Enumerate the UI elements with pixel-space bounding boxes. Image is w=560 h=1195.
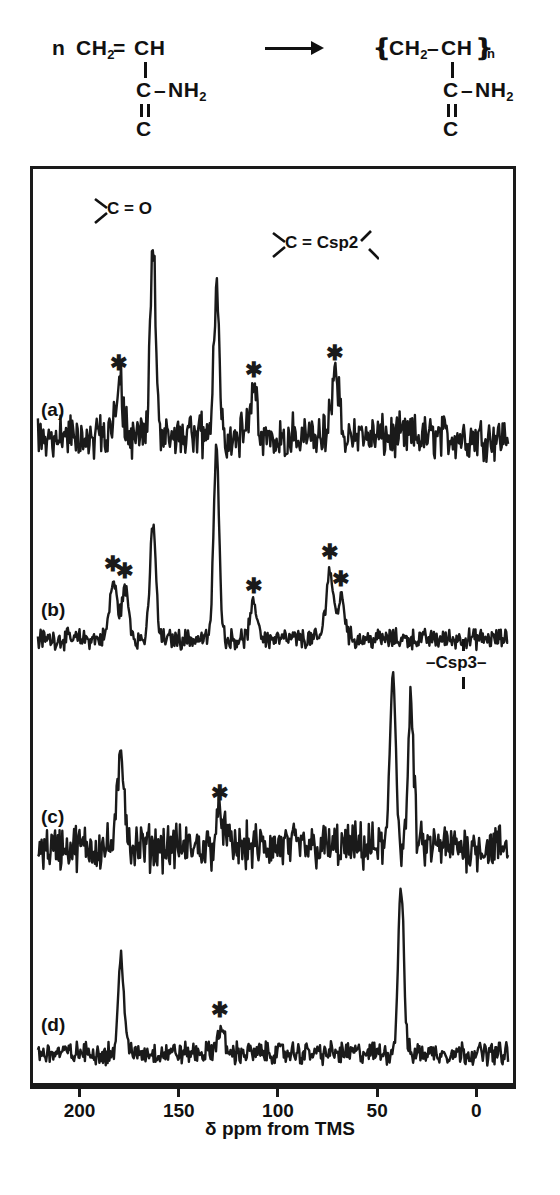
monomer-double-bond-left bbox=[140, 104, 143, 117]
polymer-ch: CH bbox=[441, 36, 472, 60]
sideband-asterisk: ✱ bbox=[332, 567, 350, 590]
monomer-amide-dash: – bbox=[154, 78, 166, 102]
polymer-bond-ch-to-c bbox=[451, 62, 454, 78]
sideband-asterisk: ✱ bbox=[326, 341, 344, 364]
polymer-double-bond-left bbox=[447, 104, 450, 117]
x-tick-200 bbox=[78, 1086, 81, 1097]
monomer-bond-ch-to-c bbox=[144, 62, 147, 78]
sideband-asterisk: ✱ bbox=[211, 781, 229, 804]
spectrum-trace-b bbox=[38, 445, 508, 651]
monomer-double-bond-eq: = bbox=[113, 36, 126, 60]
sideband-asterisk: ✱ bbox=[321, 540, 339, 563]
polymer-ch2-text: CH bbox=[389, 36, 420, 59]
csp3-label: –Csp3– bbox=[426, 653, 486, 673]
reaction-scheme: n CH2 = CH C – NH2 C ❴ CH2 – CH ❵ n C – … bbox=[0, 0, 560, 160]
x-tick-150 bbox=[177, 1086, 180, 1097]
x-axis-title: δ ppm from TMS bbox=[0, 1118, 560, 1140]
sideband-asterisk: ✱ bbox=[116, 559, 134, 582]
polymer-terminal-carbon: C bbox=[443, 117, 459, 141]
monomer-ch2-text: CH bbox=[76, 36, 107, 59]
sideband-asterisk: ✱ bbox=[245, 574, 263, 597]
polymer-repeat-subscript: n bbox=[487, 46, 495, 61]
monomer-nh-subscript: 2 bbox=[199, 89, 207, 104]
x-tick-0 bbox=[475, 1086, 478, 1097]
monomer-ch: CH bbox=[134, 36, 165, 60]
spectrum-trace-d bbox=[38, 889, 508, 1066]
monomer-terminal-carbon: C bbox=[136, 117, 152, 141]
trace-label-d: (d) bbox=[41, 1014, 65, 1036]
csp3-bond-bottom-icon bbox=[462, 677, 465, 689]
polymer-dash: – bbox=[427, 36, 439, 60]
right-arrow-icon bbox=[265, 40, 327, 56]
trace-label-a: (a) bbox=[41, 399, 64, 421]
polymer-amide-dash: – bbox=[461, 78, 473, 102]
monomer-ch2: CH2 bbox=[76, 36, 115, 62]
x-tick-100 bbox=[276, 1086, 279, 1097]
polymer-nh-subscript: 2 bbox=[506, 89, 514, 104]
polymer-amide-nitrogen: NH2 bbox=[475, 78, 514, 104]
csp2-bond-right-icon bbox=[357, 229, 379, 261]
polymer-double-bond-right bbox=[454, 104, 457, 117]
sideband-asterisk: ✱ bbox=[245, 358, 263, 381]
monomer-amide-nitrogen: NH2 bbox=[168, 78, 207, 104]
trace-label-c: (c) bbox=[41, 806, 64, 828]
x-axis-line bbox=[30, 1086, 516, 1089]
polymer-nh-text: NH bbox=[475, 78, 506, 101]
trace-label-b: (b) bbox=[41, 599, 65, 621]
x-tick-50 bbox=[376, 1086, 379, 1097]
spectra-plot-frame: ✱✱✱✱✱✱✱✱✱✱ (a) (b) (c) (d) C = O C = Csp… bbox=[30, 166, 516, 1086]
monomer-coefficient: n bbox=[52, 36, 65, 60]
sideband-asterisk: ✱ bbox=[211, 998, 229, 1021]
carbonyl-label: C = O bbox=[107, 199, 152, 219]
csp2-label: C = Csp2 bbox=[285, 233, 358, 253]
csp3-bond-top-icon bbox=[462, 639, 465, 651]
sideband-asterisk: ✱ bbox=[110, 351, 128, 374]
polymer-amide-carbon: C bbox=[443, 78, 459, 102]
polymer-ch2: CH2 bbox=[389, 36, 428, 62]
spectrum-trace-c bbox=[38, 672, 508, 874]
monomer-nh-text: NH bbox=[168, 78, 199, 101]
monomer-amide-carbon: C bbox=[136, 78, 152, 102]
monomer-double-bond-right bbox=[147, 104, 150, 117]
spectrum-trace-a bbox=[38, 250, 508, 462]
spectra-traces: ✱✱✱✱✱✱✱✱✱✱ bbox=[33, 169, 513, 1083]
